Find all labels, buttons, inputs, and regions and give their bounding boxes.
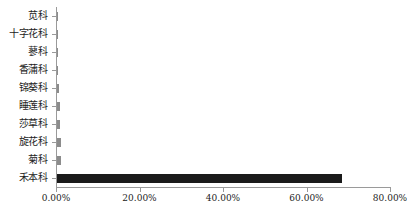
bar-chart: 苋科 十字花科 蓼科 香蒲科 锦葵科 睡莲科 莎草科 旋花科 菊科 禾本科 xyxy=(0,0,407,220)
x-axis-tick-label-4: 80.00% xyxy=(373,194,407,203)
x-axis-tick xyxy=(140,187,141,192)
y-axis-label-7: 旋花科 xyxy=(0,133,50,151)
bar-row-7 xyxy=(56,133,390,151)
y-axis-label-3: 香蒲科 xyxy=(0,61,50,79)
y-axis-line xyxy=(56,7,57,187)
x-axis-tick xyxy=(56,187,57,192)
bar-row-9 xyxy=(56,169,390,187)
bar-series xyxy=(56,7,390,187)
bar-row-5 xyxy=(56,97,390,115)
x-axis-tick-label-0: 0.00% xyxy=(42,194,71,203)
bar-row-8 xyxy=(56,151,390,169)
x-axis-ticks xyxy=(56,187,390,192)
bar-row-0 xyxy=(56,7,390,25)
y-axis-label-9: 禾本科 xyxy=(0,169,50,187)
y-axis-label-0: 苋科 xyxy=(0,7,50,25)
x-axis-tick-label-2: 40.00% xyxy=(206,194,240,203)
bar-row-6 xyxy=(56,115,390,133)
x-axis-tick-label-3: 60.00% xyxy=(289,194,323,203)
bar-row-2 xyxy=(56,43,390,61)
y-axis-label-4: 锦葵科 xyxy=(0,79,50,97)
y-axis-label-1: 十字花科 xyxy=(0,25,50,43)
x-axis-tick-label-1: 20.00% xyxy=(122,194,156,203)
x-axis-tick xyxy=(390,187,391,192)
bar-row-1 xyxy=(56,25,390,43)
y-axis-label-5: 睡莲科 xyxy=(0,97,50,115)
y-axis-labels: 苋科 十字花科 蓼科 香蒲科 锦葵科 睡莲科 莎草科 旋花科 菊科 禾本科 xyxy=(0,7,50,187)
bar-row-3 xyxy=(56,61,390,79)
y-axis-label-8: 菊科 xyxy=(0,151,50,169)
x-axis-tick xyxy=(307,187,308,192)
bar-row-4 xyxy=(56,79,390,97)
x-axis-labels: 0.00%20.00%40.00%60.00%80.00% xyxy=(56,194,390,208)
x-axis-tick xyxy=(223,187,224,192)
y-axis-label-2: 蓼科 xyxy=(0,43,50,61)
y-axis-label-6: 莎草科 xyxy=(0,115,50,133)
bar-9 xyxy=(56,174,342,183)
plot-area xyxy=(56,7,390,187)
